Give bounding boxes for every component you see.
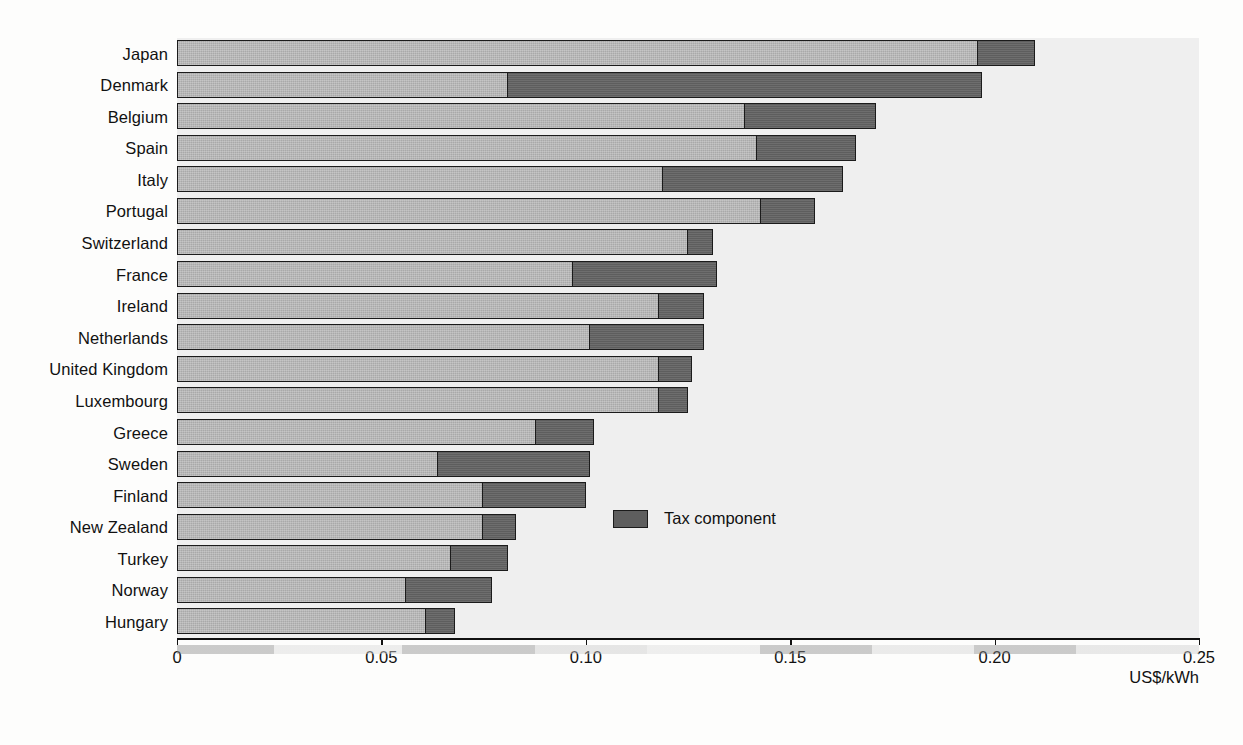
stacked-bar	[177, 229, 713, 255]
x-axis-tick-label: 0.25	[1183, 648, 1215, 667]
bar-segment-pre-tax-price	[177, 387, 659, 413]
legend-label-tax-component: Tax component	[664, 509, 776, 528]
bar-row: Turkey	[0, 543, 1243, 574]
bar-segment-tax-component	[425, 608, 455, 634]
bar-segment-tax-component	[535, 419, 594, 445]
bar-row: Luxembourg	[0, 385, 1243, 416]
category-label-ireland: Ireland	[117, 297, 168, 316]
bar-segment-pre-tax-price	[177, 135, 757, 161]
bar-segment-pre-tax-price	[177, 514, 484, 540]
bar-segment-pre-tax-price	[177, 608, 426, 634]
x-axis-tick	[790, 638, 791, 645]
bar-row: Italy	[0, 164, 1243, 195]
bar-segment-tax-component	[572, 261, 716, 287]
stacked-bar	[177, 40, 1035, 66]
category-label-new-zealand: New Zealand	[70, 518, 168, 537]
stacked-bar	[177, 72, 982, 98]
bar-segment-tax-component	[662, 166, 843, 192]
bar-row: Finland	[0, 480, 1243, 511]
x-axis-line	[177, 638, 1199, 640]
stacked-bar	[177, 608, 455, 634]
stacked-bar	[177, 103, 876, 129]
category-label-sweden: Sweden	[108, 455, 168, 474]
bar-row: Japan	[0, 38, 1243, 69]
bar-row: Portugal	[0, 196, 1243, 227]
category-label-italy: Italy	[137, 170, 168, 189]
category-label-belgium: Belgium	[108, 107, 168, 126]
bar-segment-tax-component	[589, 324, 705, 350]
bar-segment-tax-component	[658, 356, 692, 382]
legend-swatch-tax-component	[613, 510, 648, 528]
bar-segment-tax-component	[977, 40, 1036, 66]
category-label-luxembourg: Luxembourg	[75, 391, 168, 410]
category-label-greece: Greece	[113, 423, 168, 442]
category-label-norway: Norway	[111, 581, 168, 600]
category-label-denmark: Denmark	[100, 76, 168, 95]
x-axis-tick-label: 0.15	[774, 648, 806, 667]
stacked-bar	[177, 577, 492, 603]
bar-segment-pre-tax-price	[177, 545, 451, 571]
stacked-bar	[177, 356, 692, 382]
x-axis-tick	[995, 638, 996, 645]
x-axis-tick-label: 0	[172, 648, 181, 667]
bar-row: United Kingdom	[0, 354, 1243, 385]
x-axis-tick-label: 0.10	[570, 648, 602, 667]
stacked-bar	[177, 198, 815, 224]
bar-row: Ireland	[0, 291, 1243, 322]
bar-segment-tax-component	[687, 229, 713, 255]
bar-segment-pre-tax-price	[177, 40, 978, 66]
stacked-bar	[177, 324, 704, 350]
x-axis-tick	[586, 638, 587, 645]
x-axis: 00.050.100.150.200.25	[177, 638, 1199, 639]
bar-row: Norway	[0, 575, 1243, 606]
bar-segment-pre-tax-price	[177, 293, 659, 319]
chart-legend: Tax component	[613, 509, 776, 528]
category-label-turkey: Turkey	[118, 549, 168, 568]
stacked-bar	[177, 419, 594, 445]
bar-segment-tax-component	[756, 135, 855, 161]
bar-segment-tax-component	[405, 577, 492, 603]
category-label-hungary: Hungary	[105, 613, 168, 632]
bar-segment-pre-tax-price	[177, 324, 590, 350]
category-label-finland: Finland	[113, 486, 168, 505]
x-axis-unit-label: US$/kWh	[1129, 668, 1199, 687]
bar-row: Denmark	[0, 70, 1243, 101]
bar-segment-tax-component	[658, 293, 704, 319]
bar-segment-tax-component	[482, 482, 586, 508]
bar-segment-pre-tax-price	[177, 261, 574, 287]
category-label-portugal: Portugal	[106, 202, 168, 221]
bar-segment-pre-tax-price	[177, 451, 439, 477]
scan-artifact-strip	[177, 645, 1199, 654]
stacked-bar	[177, 482, 586, 508]
stacked-bar	[177, 135, 856, 161]
bar-segment-pre-tax-price	[177, 103, 745, 129]
category-label-switzerland: Switzerland	[82, 234, 168, 253]
category-label-spain: Spain	[125, 139, 168, 158]
bar-row: Greece	[0, 417, 1243, 448]
bar-segment-tax-component	[658, 387, 688, 413]
stacked-bar	[177, 166, 843, 192]
bar-segment-tax-component	[507, 72, 983, 98]
stacked-bar	[177, 451, 590, 477]
electricity-price-bar-chart: JapanDenmarkBelgiumSpainItalyPortugalSwi…	[0, 0, 1243, 745]
bar-segment-pre-tax-price	[177, 229, 688, 255]
category-label-united-kingdom: United Kingdom	[49, 360, 168, 379]
stacked-bar	[177, 545, 508, 571]
bar-segment-pre-tax-price	[177, 166, 663, 192]
bar-segment-tax-component	[482, 514, 516, 540]
bar-segment-tax-component	[744, 103, 876, 129]
bar-row: Netherlands	[0, 322, 1243, 353]
bar-segment-pre-tax-price	[177, 356, 659, 382]
category-label-france: France	[116, 265, 168, 284]
bar-segment-tax-component	[450, 545, 509, 571]
x-axis-tick	[1199, 638, 1200, 645]
x-axis-tick-label: 0.20	[979, 648, 1011, 667]
x-axis-tick	[381, 638, 382, 645]
bar-segment-pre-tax-price	[177, 72, 508, 98]
stacked-bar	[177, 387, 688, 413]
bar-segment-pre-tax-price	[177, 419, 537, 445]
bar-segment-tax-component	[760, 198, 814, 224]
x-axis-tick-label: 0.05	[365, 648, 397, 667]
bar-row: Belgium	[0, 101, 1243, 132]
category-label-japan: Japan	[123, 44, 168, 63]
